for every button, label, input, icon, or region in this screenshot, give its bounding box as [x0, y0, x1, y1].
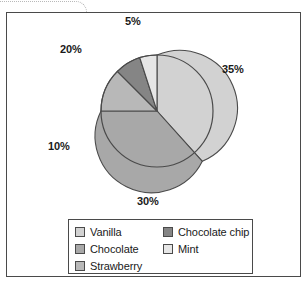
- legend-label-vanilla: Vanilla: [90, 226, 122, 238]
- pie-label-chocolate-chip: 20%: [60, 43, 82, 55]
- legend-item-strawberry: Strawberry: [75, 257, 163, 274]
- pie-label-mint: 5%: [125, 15, 141, 27]
- legend-swatch-icon-strawberry: [75, 261, 85, 271]
- pie-svg: [7, 13, 302, 213]
- chart-legend: Vanilla Chocolate Strawberry Chocolate c…: [68, 219, 253, 274]
- legend-label-chocolate-chip: Chocolate chip: [178, 226, 249, 238]
- legend-item-mint: Mint: [163, 240, 253, 257]
- legend-swatch-icon-chocolate-chip: [163, 227, 173, 237]
- legend-item-chocolate-chip: Chocolate chip: [163, 223, 253, 240]
- pie-chart: 5% 20% 35% 10% 30%: [7, 13, 302, 213]
- legend-column-right: Chocolate chip Mint: [163, 223, 253, 257]
- legend-column-left: Vanilla Chocolate Strawberry: [75, 223, 163, 274]
- legend-swatch-icon-mint: [163, 244, 173, 254]
- legend-label-chocolate: Chocolate: [90, 243, 139, 255]
- legend-swatch-icon-chocolate: [75, 244, 85, 254]
- pie-label-strawberry: 10%: [48, 140, 70, 152]
- chart-frame: 5% 20% 35% 10% 30% Vanilla Chocolate Str…: [6, 12, 301, 277]
- pie-label-vanilla: 35%: [222, 63, 244, 75]
- pie-label-chocolate: 30%: [137, 195, 159, 207]
- legend-item-chocolate: Chocolate: [75, 240, 163, 257]
- legend-label-mint: Mint: [178, 243, 198, 255]
- legend-item-vanilla: Vanilla: [75, 223, 163, 240]
- legend-swatch-icon-vanilla: [75, 227, 85, 237]
- legend-label-strawberry: Strawberry: [90, 260, 142, 272]
